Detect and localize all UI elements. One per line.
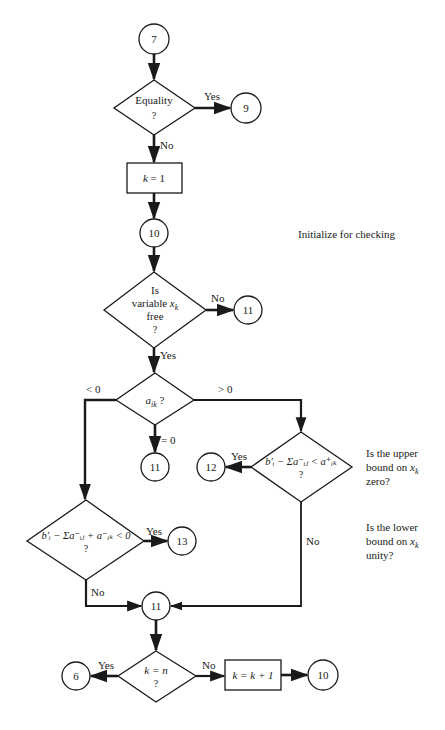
connector-12-label: 12 <box>206 461 217 474</box>
kn-expr: k = n <box>144 663 167 677</box>
annotation-upper-sub: k <box>415 467 419 476</box>
edge-label-free-no: No <box>211 292 224 305</box>
lower-expr: b′ᵢ − Σa⁻ᵢⱼ + a⁻ᵢₖ < 0 <box>41 529 130 542</box>
annotation-lower-line1: Is the lower <box>366 520 418 534</box>
annotation-lower-prefix: bound on <box>366 535 410 547</box>
connector-7-label: 7 <box>151 33 157 46</box>
edge-aik-negative <box>85 400 116 499</box>
connector-11-free-label: 11 <box>243 304 254 317</box>
free-line3: free <box>132 310 179 323</box>
edge-label-kn-yes: Yes <box>98 659 114 672</box>
edge-label-lower-yes: Yes <box>146 525 162 538</box>
free-var-sub: k <box>175 303 179 312</box>
free-line2-prefix: variable <box>132 297 170 309</box>
init-eq: = 1 <box>148 172 165 184</box>
increment-label: k = k + 1 <box>232 669 273 682</box>
edge-label-equality-yes: Yes <box>204 90 220 103</box>
annotation-lower-bound: Is the lower bound on xk unity? <box>366 520 418 562</box>
lower-question: ? <box>41 542 130 555</box>
upper-question: ? <box>265 468 337 481</box>
edge-label-upper-no: No <box>306 535 319 548</box>
connector-10-bottom-label: 10 <box>318 669 329 682</box>
aik-label: aik ? <box>146 394 165 407</box>
edge-label-aik-positive: > 0 <box>218 383 232 396</box>
equality-text: Equality <box>135 93 172 108</box>
kn-question: ? <box>144 677 167 691</box>
connector-13-label: 13 <box>177 535 188 548</box>
edge-label-free-yes: Yes <box>160 349 176 362</box>
edge-label-aik-negative: < 0 <box>86 383 100 396</box>
kn-label: k = n ? <box>144 663 167 691</box>
free-question: ? <box>132 323 179 336</box>
equality-label: Equality ? <box>135 93 172 123</box>
edge-aik-positive <box>194 400 301 431</box>
connector-11-merge-label: 11 <box>151 600 162 613</box>
annotation-lower-line3: unity? <box>366 548 418 562</box>
edge-upper-no <box>171 502 301 606</box>
annotation-upper-line3: zero? <box>366 474 418 488</box>
annotation-initialize: Initialize for checking <box>298 227 395 241</box>
annotation-upper-line2: bound on xk <box>366 460 418 474</box>
annotation-lower-sub: k <box>415 541 419 550</box>
free-line1: Is <box>132 284 179 297</box>
edge-label-aik-zero: = 0 <box>161 434 175 447</box>
annotation-upper-line1: Is the upper <box>366 446 418 460</box>
init-label: k = 1 <box>143 172 165 185</box>
free-line2: variable xk <box>132 297 179 310</box>
connector-6-label: 6 <box>73 670 79 683</box>
annotation-upper-bound: Is the upper bound on xk zero? <box>366 446 418 488</box>
upper-label: b′ᵢ − Σa⁻ᵢⱼ < a⁺ᵢₖ ? <box>265 455 337 481</box>
equality-question: ? <box>135 108 172 123</box>
annotation-lower-line2: bound on xk <box>366 534 418 548</box>
lower-label: b′ᵢ − Σa⁻ᵢⱼ + a⁻ᵢₖ < 0 ? <box>41 529 130 555</box>
connector-10-top-label: 10 <box>149 227 160 240</box>
edge-label-upper-yes: Yes <box>231 450 247 463</box>
annotation-upper-prefix: bound on <box>366 461 410 473</box>
edge-label-lower-no: No <box>91 586 104 599</box>
aik-suffix: ? <box>157 394 165 406</box>
connector-9-label: 9 <box>243 102 249 115</box>
edge-label-kn-no: No <box>202 659 215 672</box>
flowchart-canvas <box>0 0 445 730</box>
free-label: Is variable xk free ? <box>132 284 179 336</box>
edge-label-equality-no: No <box>160 139 173 152</box>
connector-11-zero-label: 11 <box>150 461 161 474</box>
upper-expr: b′ᵢ − Σa⁻ᵢⱼ < a⁺ᵢₖ <box>265 455 337 468</box>
